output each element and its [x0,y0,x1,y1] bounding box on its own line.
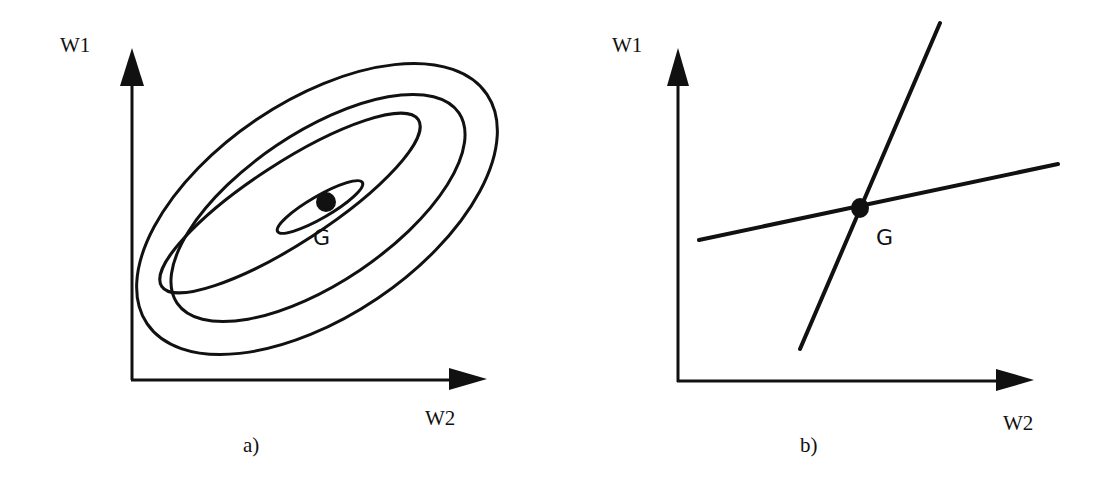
panel-b-y-axis-arrow-icon [667,48,689,86]
panel-a-x-label: W2 [425,406,455,430]
contour-outer [87,5,548,413]
panel-a-x-axis-arrow-icon [449,368,487,390]
panel-b: W1 W2 G b) [612,23,1058,457]
panel-b-steep-line [800,23,940,349]
figure-canvas: W1 W2 G a) W1 W2 G b) [0,0,1120,483]
panel-a-minimum-point [316,192,336,212]
panel-b-point-label: G [876,225,893,250]
panel-a-y-label: W1 [60,33,90,57]
panel-a-y-axis-arrow-icon [120,48,144,86]
panel-b-y-label: W1 [612,33,642,57]
panel-a: W1 W2 G a) [60,5,547,457]
panel-b-x-axis-arrow-icon [996,369,1034,391]
panel-a-caption: a) [243,433,259,457]
panel-b-intersection-point [851,198,869,218]
panel-b-caption: b) [800,433,818,457]
panel-b-x-label: W2 [1003,411,1033,435]
panel-a-contours [87,5,548,413]
panel-a-point-label: G [313,225,330,250]
